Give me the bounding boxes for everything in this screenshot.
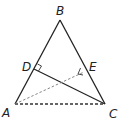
triangle-diagram: B D E A C — [0, 0, 124, 121]
label-c: C — [109, 107, 118, 121]
label-d: D — [22, 60, 31, 74]
label-b: B — [56, 4, 64, 18]
right-angle-mark-d — [38, 64, 42, 71]
label-e: E — [89, 60, 97, 74]
label-a: A — [1, 106, 10, 120]
diagram-canvas: B D E A C — [0, 0, 124, 121]
segment-cd — [34, 69, 105, 104]
segment-bc — [60, 20, 105, 104]
